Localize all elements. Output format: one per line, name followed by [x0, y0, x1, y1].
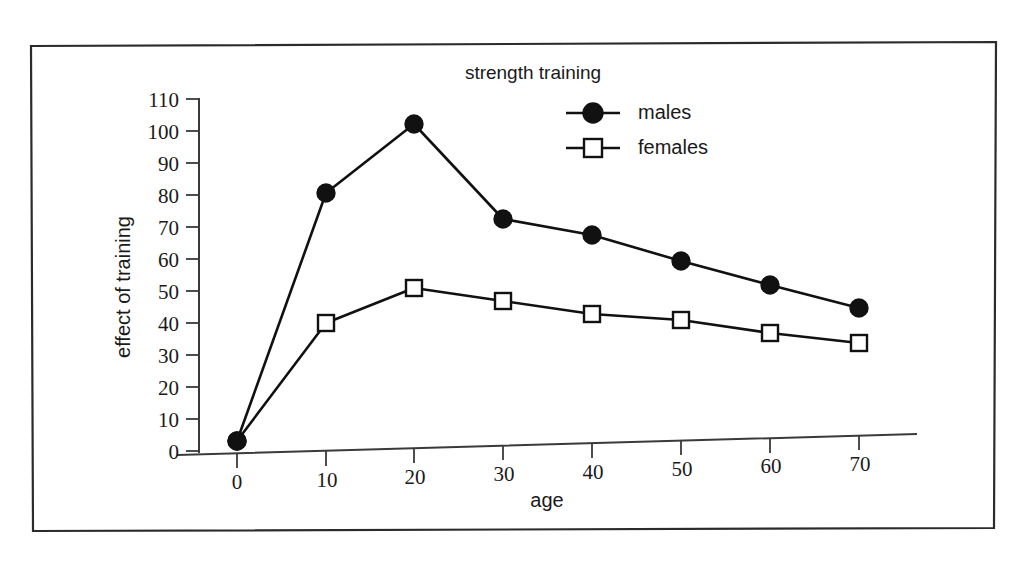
- females-point-0: [228, 432, 246, 450]
- x-tick-label-0: 0: [232, 470, 243, 494]
- x-tick-label-60: 60: [761, 454, 782, 478]
- legend-entry-females: females: [566, 136, 708, 158]
- females-point-10: [318, 315, 334, 331]
- males-point-60: [761, 276, 779, 294]
- y-tick-label-110: 110: [148, 88, 179, 112]
- y-tick-label-10: 10: [158, 408, 179, 432]
- females-point-50: [673, 312, 689, 328]
- y-tick-label-40: 40: [158, 312, 179, 336]
- y-tick-label-50: 50: [158, 280, 179, 304]
- females-point-40: [584, 306, 600, 322]
- y-tick-label-100: 100: [148, 120, 180, 144]
- females-point-30: [495, 293, 511, 309]
- x-axis-title: age: [530, 489, 563, 511]
- males-point-10: [317, 184, 335, 202]
- males-point-50: [672, 252, 690, 270]
- x-tick-label-50: 50: [672, 457, 693, 481]
- females-point-20: [406, 280, 422, 296]
- x-tick-label-30: 30: [494, 462, 515, 486]
- y-tick-label-0: 0: [169, 440, 180, 464]
- legend-males-label: males: [638, 101, 691, 123]
- figure-background: [0, 0, 1024, 573]
- x-tick-label-70: 70: [850, 452, 871, 476]
- y-tick-label-60: 60: [158, 248, 179, 272]
- females-point-70: [851, 335, 867, 351]
- legend-males-marker-icon: [583, 103, 603, 123]
- legend-females-marker-icon: [584, 139, 602, 157]
- legend-females-label: females: [638, 136, 708, 158]
- males-point-30: [494, 210, 512, 228]
- y-tick-label-20: 20: [158, 376, 179, 400]
- males-point-40: [583, 226, 601, 244]
- y-tick-label-80: 80: [158, 184, 179, 208]
- x-tick-label-40: 40: [583, 460, 604, 484]
- y-tick-label-70: 70: [158, 216, 179, 240]
- y-tick-label-30: 30: [158, 344, 179, 368]
- chart-title: strength training: [465, 62, 601, 83]
- x-tick-label-20: 20: [405, 465, 426, 489]
- figure-root: 110 100 90 80 70 60 50 40 30 20 10 0: [0, 0, 1024, 573]
- females-point-60: [762, 325, 778, 341]
- males-point-70: [850, 299, 868, 317]
- y-tick-label-90: 90: [158, 152, 179, 176]
- males-point-20: [405, 115, 423, 133]
- strength-training-line-chart: 110 100 90 80 70 60 50 40 30 20 10 0: [0, 0, 1024, 573]
- x-tick-label-10: 10: [317, 468, 338, 492]
- y-axis-title: effect of training: [112, 216, 134, 358]
